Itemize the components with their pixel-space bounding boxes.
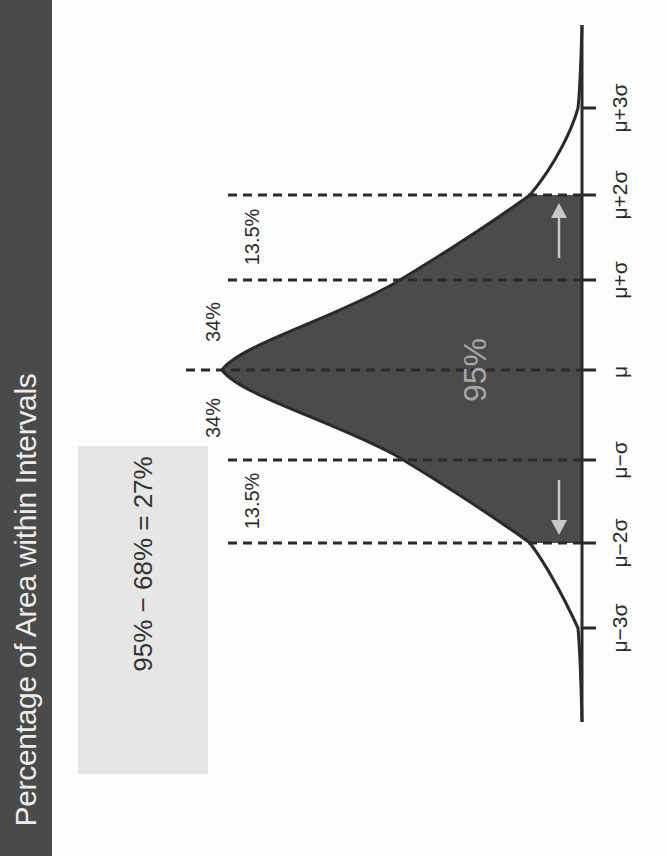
tick-label-mu-minus-sigma: μ−σ <box>608 441 632 478</box>
tick-label-mu-minus-3sigma: μ−3σ <box>608 603 632 652</box>
tick-label-mu-minus-2sigma: μ−2σ <box>608 518 632 567</box>
label-lower-inner-34: 34% <box>202 398 225 438</box>
tick-label-mu-plus-2sigma: μ+2σ <box>608 170 632 219</box>
tick-label-mu: μ <box>608 366 632 378</box>
label-upper-inner-34: 34% <box>202 302 225 342</box>
label-lower-outer-13-5: 13.5% <box>241 473 264 530</box>
tick-label-mu-plus-sigma: μ+σ <box>608 261 632 298</box>
normal-curve-diagram <box>0 0 669 856</box>
label-upper-outer-13-5: 13.5% <box>241 209 264 266</box>
tick-label-mu-plus-3sigma: μ+3σ <box>608 83 632 132</box>
label-center-95: 95% <box>457 338 494 402</box>
axis-ticks <box>582 108 596 628</box>
